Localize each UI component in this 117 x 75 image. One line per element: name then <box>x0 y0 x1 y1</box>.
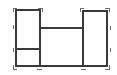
right-box <box>83 11 107 66</box>
diagram-canvas <box>0 0 117 75</box>
left-box <box>16 10 40 66</box>
wireframe-diagram <box>0 0 117 75</box>
